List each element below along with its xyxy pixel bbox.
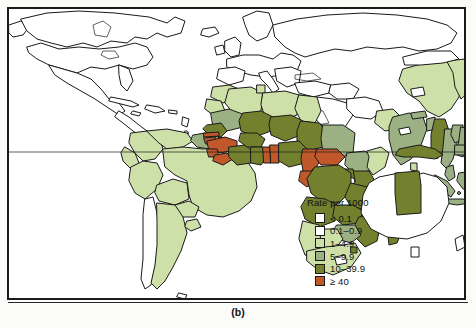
map-frame: .ln{stroke:#1a1a1a;stroke-width:1;stroke… — [7, 7, 466, 300]
legend-row: 5–9.9 — [305, 250, 409, 263]
legend-ge-40-label: ≥ 40 — [330, 276, 349, 287]
legend-ge-40-swatch — [315, 276, 325, 286]
legend-title: Rate per 1000 — [305, 197, 409, 208]
legend-row: < 0.1 — [305, 212, 409, 225]
legend-10-39-9-swatch — [315, 264, 325, 274]
legend-lt-0-1-swatch — [315, 213, 325, 223]
figure-root: .ln{stroke:#1a1a1a;stroke-width:1;stroke… — [0, 0, 476, 328]
figure-caption: (b) — [0, 306, 476, 318]
legend-1-4-9-label: 1–4.9 — [330, 238, 354, 249]
caption-rule — [8, 302, 468, 303]
legend-1-4-9-swatch — [315, 238, 325, 248]
legend-row: 10–39.9 — [305, 262, 409, 275]
legend-5-9-9-swatch — [315, 251, 325, 261]
legend-10-39-9-label: 10–39.9 — [330, 263, 365, 274]
legend-rows: < 0.10.1–0.91–4.95–9.910–39.9≥ 40 — [305, 212, 409, 288]
legend-row: 0.1–0.9 — [305, 225, 409, 238]
map-legend: Rate per 1000 < 0.10.1–0.91–4.95–9.910–3… — [305, 197, 409, 288]
legend-0-1-0-9-label: 0.1–0.9 — [330, 225, 362, 236]
legend-row: ≥ 40 — [305, 275, 409, 288]
legend-row: 1–4.9 — [305, 237, 409, 250]
legend-5-9-9-label: 5–9.9 — [330, 251, 354, 262]
legend-lt-0-1-label: < 0.1 — [330, 213, 352, 224]
legend-0-1-0-9-swatch — [315, 226, 325, 236]
